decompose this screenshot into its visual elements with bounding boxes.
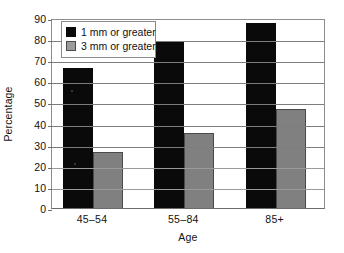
legend-label: 1 mm or greater — [81, 27, 156, 38]
gridline — [52, 62, 324, 63]
bar-series2 — [93, 152, 123, 208]
gridline — [52, 147, 324, 148]
gridline — [52, 126, 324, 127]
x-tick-label: 45–54 — [52, 213, 132, 225]
x-axis-title: Age — [51, 231, 325, 243]
x-axis-tick-labels: 45–5455–8485+ — [51, 213, 325, 229]
x-tick-label: 85+ — [235, 213, 315, 225]
legend-item: 3 mm or greater — [66, 39, 151, 53]
legend-swatch-icon — [66, 41, 76, 51]
y-tick-label: 40 — [20, 120, 46, 130]
bar-chart-figure: Percentage 9080706050403020100 1 mm or g… — [0, 0, 344, 253]
y-tick-label: 30 — [20, 141, 46, 151]
scan-artifact — [71, 90, 73, 92]
chart-legend: 1 mm or greater 3 mm or greater — [61, 21, 156, 58]
y-tick-label: 80 — [20, 35, 46, 45]
bar-series1 — [63, 68, 93, 208]
y-tick-mark — [48, 210, 52, 211]
gridline — [52, 104, 324, 105]
y-tick-label: 50 — [20, 98, 46, 108]
y-tick-label: 20 — [20, 162, 46, 172]
legend-label: 3 mm or greater — [81, 41, 156, 52]
y-tick-label: 70 — [20, 56, 46, 66]
gridline — [52, 189, 324, 190]
bar-series2 — [184, 133, 214, 208]
scan-artifact — [74, 163, 76, 165]
y-axis-tick-labels: 9080706050403020100 — [20, 19, 46, 209]
bar-series2 — [276, 109, 306, 208]
legend-item: 1 mm or greater — [66, 25, 151, 39]
gridline — [52, 83, 324, 84]
legend-swatch-icon — [66, 27, 76, 37]
x-tick-label: 55–84 — [143, 213, 223, 225]
y-tick-label: 0 — [20, 204, 46, 214]
y-axis-title: Percentage — [1, 20, 15, 209]
y-tick-label: 60 — [20, 77, 46, 87]
gridline — [52, 168, 324, 169]
y-tick-label: 90 — [20, 14, 46, 24]
y-tick-label: 10 — [20, 183, 46, 193]
y-tick-mark — [48, 20, 52, 21]
bar-series1 — [246, 23, 276, 208]
